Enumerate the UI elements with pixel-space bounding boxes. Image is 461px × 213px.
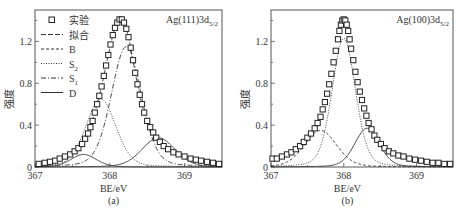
data-point bbox=[318, 114, 323, 119]
curve-s1 bbox=[35, 47, 222, 167]
data-point bbox=[104, 63, 109, 68]
chart-figure: 36736836900.40.81.2 Ag(111)3d5/2 BE/eV 强… bbox=[0, 0, 461, 213]
data-point bbox=[137, 92, 142, 97]
data-point bbox=[216, 161, 221, 166]
experimental-points bbox=[36, 17, 222, 167]
legend-label: S2 bbox=[69, 59, 79, 73]
data-point bbox=[110, 33, 115, 38]
data-point bbox=[430, 160, 435, 165]
data-point bbox=[92, 110, 97, 115]
data-point bbox=[148, 125, 153, 130]
x-tick-label: 368 bbox=[336, 170, 351, 181]
y-tick-label: 0.4 bbox=[256, 120, 269, 131]
data-point bbox=[308, 131, 313, 136]
data-point bbox=[391, 151, 396, 156]
x-tick-label: 368 bbox=[102, 170, 117, 181]
data-point bbox=[359, 97, 364, 102]
panel-a: 36736836900.40.81.2 Ag(111)3d5/2 BE/eV 强… bbox=[3, 10, 222, 207]
data-point bbox=[204, 159, 209, 164]
data-point bbox=[112, 25, 117, 30]
legend-label-text: 拟合 bbox=[69, 29, 89, 41]
data-point bbox=[312, 126, 317, 131]
data-point bbox=[335, 37, 340, 42]
data-point bbox=[347, 37, 352, 42]
legend-label: 拟合 bbox=[69, 29, 89, 41]
experimental-points bbox=[270, 17, 453, 167]
data-point bbox=[327, 82, 332, 87]
data-point bbox=[364, 113, 369, 118]
data-point bbox=[325, 91, 330, 96]
data-point bbox=[188, 156, 193, 161]
y-tick-label: 0.8 bbox=[256, 78, 269, 89]
data-point bbox=[346, 28, 351, 33]
data-point bbox=[199, 158, 204, 163]
data-point bbox=[401, 154, 406, 159]
data-point bbox=[396, 153, 401, 158]
y-tick-label: 1.2 bbox=[20, 36, 33, 47]
legend-entry: 拟合 bbox=[41, 29, 89, 41]
legend-label-subscript: 1 bbox=[75, 79, 79, 87]
data-point bbox=[436, 160, 441, 165]
legend-entry: S1 bbox=[41, 73, 79, 87]
data-point bbox=[133, 70, 138, 75]
data-point bbox=[320, 107, 325, 112]
data-point bbox=[182, 154, 187, 159]
legend-label: D bbox=[69, 88, 76, 99]
x-tick-label: 369 bbox=[409, 170, 424, 181]
legend-entry: 实验 bbox=[49, 14, 89, 26]
data-point bbox=[106, 52, 111, 57]
data-point bbox=[274, 156, 279, 161]
legend-entry: S2 bbox=[41, 59, 79, 73]
data-point bbox=[279, 154, 284, 159]
legend-label: S1 bbox=[69, 73, 79, 87]
data-point bbox=[90, 118, 95, 123]
data-point bbox=[448, 161, 453, 166]
legend-entry: B bbox=[41, 44, 76, 55]
data-point bbox=[139, 102, 144, 107]
panel-label: (b) bbox=[342, 195, 354, 207]
legend-label: B bbox=[69, 44, 76, 55]
data-point bbox=[349, 46, 354, 51]
data-point bbox=[97, 93, 102, 98]
data-point bbox=[166, 147, 171, 152]
data-point bbox=[151, 130, 156, 135]
data-point bbox=[357, 89, 362, 94]
data-point bbox=[210, 160, 215, 165]
data-point bbox=[315, 120, 320, 125]
data-point bbox=[337, 28, 342, 33]
panel-annotation: Ag(100)3d5/2 bbox=[396, 14, 449, 28]
data-point bbox=[47, 159, 52, 164]
data-point bbox=[128, 45, 133, 50]
y-tick-label: 0 bbox=[27, 162, 32, 173]
data-point bbox=[331, 60, 336, 65]
data-point bbox=[108, 42, 113, 47]
data-point bbox=[80, 141, 85, 146]
x-axis-label: BE/eV bbox=[100, 183, 128, 194]
legend: 实验拟合BS2S1D bbox=[41, 14, 89, 99]
data-point bbox=[142, 110, 147, 115]
x-tick-label: 369 bbox=[177, 170, 192, 181]
data-point bbox=[362, 106, 367, 111]
data-point bbox=[95, 102, 100, 107]
data-point bbox=[83, 136, 88, 141]
data-point bbox=[42, 160, 47, 165]
data-point bbox=[121, 20, 126, 25]
data-point bbox=[193, 157, 198, 162]
legend-label-subscript: 2 bbox=[75, 65, 79, 73]
data-point bbox=[333, 48, 338, 53]
y-axis-label: 强度 bbox=[3, 89, 15, 109]
data-point bbox=[101, 73, 106, 78]
y-tick-label: 0.4 bbox=[20, 120, 33, 131]
data-point bbox=[86, 131, 91, 136]
axis-ticks: 36736836900.40.81.2 bbox=[20, 20, 193, 181]
legend-entry: D bbox=[41, 88, 76, 99]
y-tick-label: 0.8 bbox=[20, 78, 33, 89]
data-point bbox=[351, 58, 356, 63]
data-point bbox=[171, 150, 176, 155]
data-point bbox=[366, 120, 371, 125]
data-point bbox=[124, 26, 129, 31]
data-point bbox=[57, 156, 62, 161]
data-point bbox=[62, 154, 67, 159]
data-point bbox=[145, 118, 150, 123]
plot-frame bbox=[35, 10, 222, 167]
